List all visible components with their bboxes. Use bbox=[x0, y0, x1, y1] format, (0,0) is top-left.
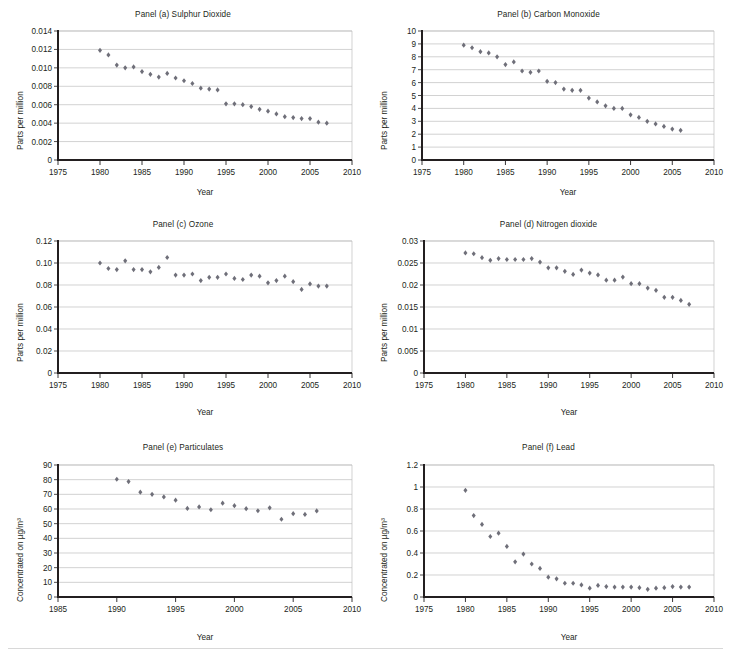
x-tick-label: 2010 bbox=[705, 605, 724, 614]
x-tick-label: 1975 bbox=[415, 381, 434, 390]
data-point-marker bbox=[570, 88, 574, 93]
y-tick-label: 0 bbox=[47, 369, 52, 378]
data-point-marker bbox=[185, 506, 189, 511]
data-point-marker bbox=[512, 59, 516, 64]
data-point-marker bbox=[279, 517, 283, 522]
plot-area: 0123456789101975198019851990199520002005… bbox=[366, 0, 731, 210]
x-tick-label: 1995 bbox=[581, 381, 600, 390]
data-point-marker bbox=[274, 111, 278, 116]
data-point-marker bbox=[670, 126, 674, 131]
data-point-marker bbox=[578, 88, 582, 93]
data-point-marker bbox=[98, 48, 102, 53]
y-tick-label: 2 bbox=[411, 130, 416, 139]
x-tick-label: 2000 bbox=[622, 605, 641, 614]
x-tick-label: 1985 bbox=[133, 381, 152, 390]
data-point-marker bbox=[207, 275, 211, 280]
data-point-marker bbox=[679, 585, 683, 590]
x-tick-label: 2005 bbox=[663, 168, 682, 177]
data-point-marker bbox=[462, 43, 466, 48]
x-tick-label: 1980 bbox=[456, 381, 475, 390]
data-point-marker bbox=[530, 561, 534, 566]
data-point-marker bbox=[671, 295, 675, 300]
x-ticks: 198519901995200020052010 bbox=[49, 597, 362, 614]
data-point-marker bbox=[503, 62, 507, 67]
y-gridlines: 00.20.40.60.811.2 bbox=[407, 461, 714, 602]
y-tick-label: 3 bbox=[411, 117, 416, 126]
data-point-marker bbox=[596, 272, 600, 277]
y-tick-label: 0.004 bbox=[32, 119, 53, 128]
data-point-marker bbox=[207, 86, 211, 91]
x-tick-label: 2000 bbox=[225, 605, 244, 614]
data-point-marker bbox=[165, 71, 169, 76]
data-point-marker bbox=[132, 267, 136, 272]
x-tick-label: 2005 bbox=[663, 605, 682, 614]
data-point-marker bbox=[162, 494, 166, 499]
y-tick-label: 0.002 bbox=[32, 138, 53, 147]
x-tick-label: 1985 bbox=[496, 168, 515, 177]
data-point-marker bbox=[308, 281, 312, 286]
data-point-marker bbox=[546, 575, 550, 580]
y-tick-label: 6 bbox=[411, 79, 416, 88]
data-point-marker bbox=[629, 112, 633, 117]
data-point-marker bbox=[579, 267, 583, 272]
data-point-marker bbox=[538, 566, 542, 571]
data-point-marker bbox=[488, 534, 492, 539]
data-point-marker bbox=[165, 255, 169, 260]
x-ticks: 19751980198519901995200020052010 bbox=[415, 597, 724, 614]
data-series-markers bbox=[463, 488, 691, 592]
data-point-marker bbox=[588, 586, 592, 591]
data-point-marker bbox=[495, 54, 499, 59]
chart-panel-b: Panel (b) Carbon MonoxideParts per milli… bbox=[366, 0, 731, 210]
data-point-marker bbox=[106, 266, 110, 271]
y-tick-label: 8 bbox=[411, 53, 416, 62]
chart-panel-f: Panel (f) LeadConcentrated on µg/m³Year0… bbox=[366, 430, 731, 651]
x-tick-label: 1990 bbox=[539, 605, 558, 614]
chart-panel-c: Panel (c) OzoneParts per millionYear00.0… bbox=[0, 210, 366, 430]
y-tick-label: 0.008 bbox=[32, 82, 53, 91]
panel-grid: Panel (a) Sulphur DioxideParts per milli… bbox=[0, 0, 731, 651]
data-point-marker bbox=[478, 49, 482, 54]
x-tick-label: 2000 bbox=[621, 168, 640, 177]
x-tick-label: 2010 bbox=[705, 168, 724, 177]
x-tick-label: 1995 bbox=[581, 605, 600, 614]
data-point-marker bbox=[291, 115, 295, 120]
data-point-marker bbox=[487, 50, 491, 55]
data-point-marker bbox=[629, 281, 633, 286]
plot-area: 00.20.40.60.811.219751980198519901995200… bbox=[366, 430, 731, 651]
data-point-marker bbox=[604, 584, 608, 589]
y-tick-label: 0.10 bbox=[36, 259, 52, 268]
data-point-marker bbox=[620, 106, 624, 111]
data-series-markers bbox=[462, 43, 683, 133]
data-point-marker bbox=[687, 585, 691, 590]
data-point-marker bbox=[505, 257, 509, 262]
chart-panel-a: Panel (a) Sulphur DioxideParts per milli… bbox=[0, 0, 366, 210]
data-point-marker bbox=[546, 265, 550, 270]
y-tick-label: 0.02 bbox=[402, 281, 418, 290]
data-series-markers bbox=[98, 48, 329, 126]
y-tick-label: 30 bbox=[43, 549, 53, 558]
data-point-marker bbox=[98, 260, 102, 265]
data-point-marker bbox=[637, 281, 641, 286]
y-tick-label: 90 bbox=[43, 461, 53, 470]
x-ticks: 19751980198519901995200020052010 bbox=[415, 373, 724, 390]
data-point-marker bbox=[303, 512, 307, 517]
data-point-marker bbox=[140, 69, 144, 74]
data-point-marker bbox=[604, 103, 608, 108]
data-point-marker bbox=[209, 507, 213, 512]
data-point-marker bbox=[646, 587, 650, 592]
y-tick-label: 70 bbox=[43, 490, 53, 499]
data-point-marker bbox=[300, 287, 304, 292]
plot-area: 0102030405060708090198519901995200020052… bbox=[0, 430, 366, 651]
y-tick-label: 0 bbox=[413, 369, 418, 378]
data-point-marker bbox=[595, 99, 599, 104]
y-gridlines: 00.0050.010.0150.020.0250.03 bbox=[398, 237, 715, 378]
data-point-marker bbox=[123, 65, 127, 70]
y-tick-label: 1 bbox=[413, 483, 418, 492]
data-point-marker bbox=[216, 87, 220, 92]
data-point-marker bbox=[138, 490, 142, 495]
data-point-marker bbox=[157, 74, 161, 79]
data-point-marker bbox=[182, 273, 186, 278]
x-tick-label: 2000 bbox=[622, 381, 641, 390]
x-tick-label: 1995 bbox=[217, 381, 236, 390]
y-tick-label: 0.012 bbox=[32, 45, 53, 54]
